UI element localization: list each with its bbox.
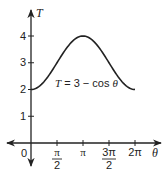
y-tick-label-4: 4 [20,30,26,42]
y-tick-label-1: 1 [20,110,26,122]
y-tick-label-2: 2 [20,83,26,95]
x-tick-3pi-half-num: 3π [102,146,116,158]
x-tick-2pi: 2π [128,146,142,158]
y-axis-label: T [36,6,44,20]
x-tick-pi-half-num: π [54,146,60,158]
origin-label: 0 [21,147,27,159]
chart: 1 2 3 4 0 π 2 π 3π 2 2π T θ T = 3 − cos … [0,0,166,178]
y-tick-label-3: 3 [20,56,26,68]
x-tick-pi: π [80,146,86,158]
equation-label: T = 3 − cos θ [55,77,119,89]
x-tick-3pi-half-den: 2 [106,159,112,171]
x-tick-pi-half-den: 2 [54,159,60,171]
x-axis-label: θ [152,146,158,160]
